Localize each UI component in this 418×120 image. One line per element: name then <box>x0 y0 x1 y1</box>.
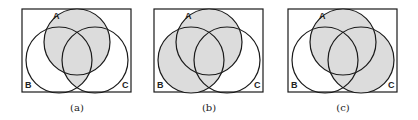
panel-caption: (c) <box>336 102 350 113</box>
set-label-b: B <box>291 80 298 90</box>
set-label-c: C <box>122 80 129 90</box>
venn-panel-b: ABC(b) <box>154 9 263 113</box>
set-label-b: B <box>25 80 32 90</box>
venn-panel-a: ABC(a) <box>22 9 131 113</box>
set-label-b: B <box>157 80 164 90</box>
venn-panel-c: ABC(c) <box>288 9 397 113</box>
set-label-a: A <box>53 11 60 21</box>
set-label-a: A <box>319 11 326 21</box>
set-label-a: A <box>185 11 192 21</box>
venn-diagram-figure: ABC(a)ABC(b)ABC(c) <box>0 0 418 120</box>
set-label-c: C <box>388 80 395 90</box>
panel-caption: (b) <box>202 102 216 113</box>
panel-caption: (a) <box>70 102 84 113</box>
set-label-c: C <box>254 80 261 90</box>
